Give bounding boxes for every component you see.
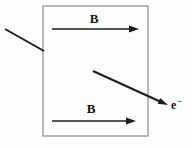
field-label-top: B	[90, 11, 99, 26]
physics-diagram: B B e−	[0, 0, 192, 148]
diagram-canvas: B B e−	[0, 0, 192, 148]
field-label-bottom: B	[87, 101, 96, 116]
electron-charge-sign: −	[177, 96, 182, 106]
